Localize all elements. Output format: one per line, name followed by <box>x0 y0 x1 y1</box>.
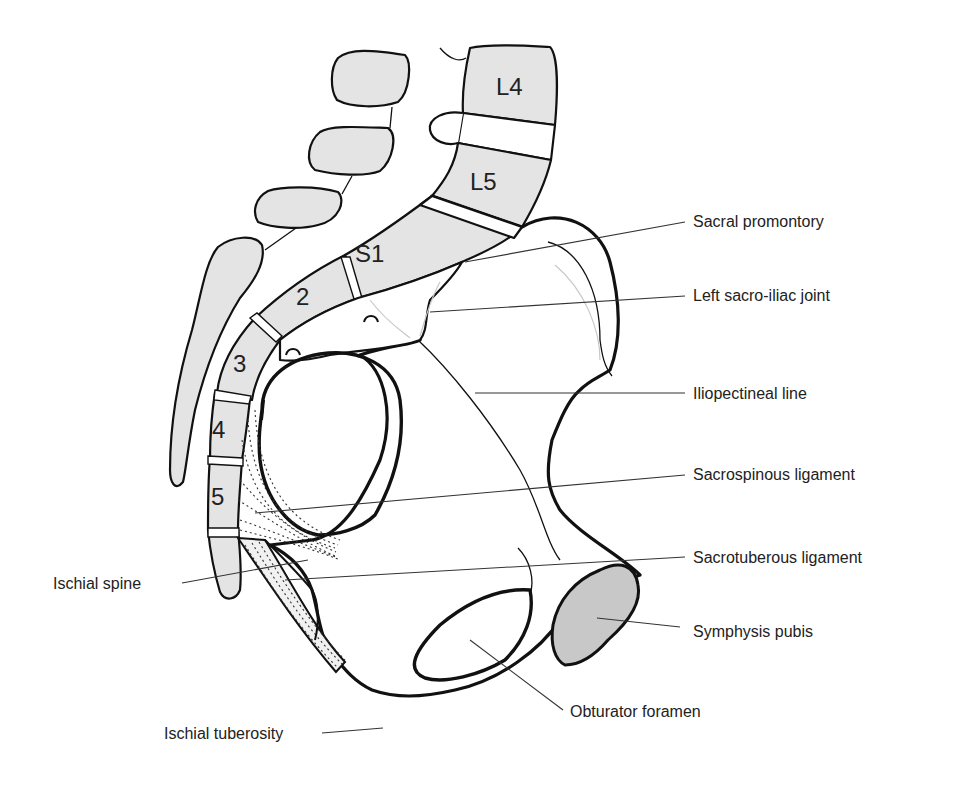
label-ischial-tuberosity: Ischial tuberosity <box>164 726 283 742</box>
vertebra-label-s3: 3 <box>233 350 246 377</box>
vertebra-label-s2: 2 <box>296 283 309 310</box>
vertebra-label-l5: L5 <box>470 168 497 195</box>
vertebra-label-s5: 5 <box>211 483 224 510</box>
vertebra-label-l4: L4 <box>496 73 523 100</box>
label-left-sacro-iliac-joint: Left sacro-iliac joint <box>693 288 830 304</box>
spinous-process-1 <box>332 51 409 106</box>
label-sacrospinous-ligament: Sacrospinous ligament <box>693 467 855 483</box>
label-ischial-spine: Ischial spine <box>53 576 141 592</box>
vertebra-label-s1: S1 <box>355 240 384 267</box>
vertebra-label-s4: 4 <box>212 416 225 443</box>
label-sacral-promontory: Sacral promontory <box>693 214 824 230</box>
lumbar-spine: L4 L5 <box>430 45 557 227</box>
label-iliopectineal-line: Iliopectineal line <box>693 386 807 402</box>
spinous-process-2 <box>309 127 393 175</box>
pelvis-anatomy-diagram: L4 L5 <box>0 0 956 787</box>
facet-l4 <box>430 112 463 144</box>
label-symphysis-pubis: Symphysis pubis <box>693 624 813 640</box>
label-obturator-foramen: Obturator foramen <box>570 704 701 720</box>
label-sacrotuberous-ligament: Sacrotuberous ligament <box>693 550 862 566</box>
coccyx <box>208 530 241 599</box>
spinous-process-3 <box>255 187 341 227</box>
